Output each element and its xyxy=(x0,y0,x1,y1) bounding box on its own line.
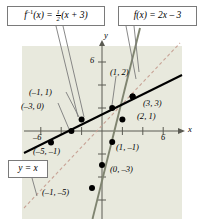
point-f-0--3 xyxy=(99,162,105,168)
point-label-2-1: (2, 1) xyxy=(137,112,156,121)
y-axis-label: y xyxy=(104,31,108,40)
x-tick-label--6: –6 xyxy=(33,134,41,142)
x-tick-label-6: 6 xyxy=(161,134,165,142)
y-tick-label-6: 6 xyxy=(90,57,94,65)
f-equation-text: f(x) = 2x – 3 xyxy=(134,11,182,21)
y-equals-x-callout: y = x xyxy=(8,160,48,178)
point-finv-3-3 xyxy=(130,94,136,100)
f-inverse-equation-callout: f–1(x) = 12(x + 3) xyxy=(7,6,105,26)
f-inverse-rhs-tail: (x + 3) xyxy=(61,10,87,20)
f-inverse-lhs-tail: (x) = xyxy=(33,10,52,20)
figure-inverse-function-graph: f–1(x) = 12(x + 3) f(x) = 2x – 3 y = x x… xyxy=(0,0,204,219)
point-finv--3-0 xyxy=(68,128,74,134)
y-axis-arrowhead xyxy=(99,40,105,46)
point-finv--5--1 xyxy=(48,140,54,146)
point-label--1--5: (–1, –5) xyxy=(42,188,69,197)
x-axis-arrowhead xyxy=(178,128,185,134)
point-f-2-1 xyxy=(119,117,125,123)
leader-finv-b xyxy=(63,26,84,117)
leader-y-equals-x xyxy=(32,178,37,196)
fraction-denominator: 2 xyxy=(56,15,61,23)
point-finv-1-2 xyxy=(109,105,115,111)
leader-point--3-0 xyxy=(58,103,69,129)
point-label--3-0: (–3, 0) xyxy=(21,102,44,111)
leader-finv-a xyxy=(56,26,78,117)
line-f xyxy=(93,28,141,219)
point-label-0--3: (0, –3) xyxy=(110,165,133,174)
x-axis-label: x xyxy=(188,125,192,134)
leader-point-1-2 xyxy=(112,76,116,105)
point-label-3-3: (3, 3) xyxy=(143,99,162,108)
point-f--1--5 xyxy=(89,185,95,191)
point-f-1--1 xyxy=(109,139,115,145)
point-label--5--1: (–5, –1) xyxy=(33,147,60,156)
point-label-1-2: (1, 2) xyxy=(110,68,129,77)
f-equation-callout: f(x) = 2x – 3 xyxy=(118,6,197,26)
point-finv--1-1 xyxy=(79,117,85,123)
point-label--1-1: (–1, 1) xyxy=(29,88,52,97)
f-inverse-equation-text: f–1(x) = 12(x + 3) xyxy=(24,9,88,23)
y-equals-x-text: y = x xyxy=(18,164,38,174)
one-half-fraction: 12 xyxy=(56,9,61,23)
point-label-1--1: (1, –1) xyxy=(116,143,139,152)
